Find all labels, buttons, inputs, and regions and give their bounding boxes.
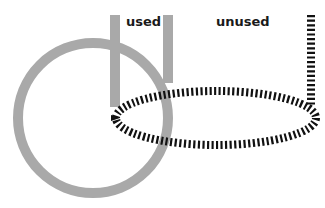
- used-lead-line-left: [110, 15, 120, 107]
- used-lead-line-right: [163, 15, 173, 83]
- used-label: used: [126, 14, 161, 29]
- used-loop-circle: [18, 43, 168, 193]
- unused-label: unused: [216, 14, 270, 29]
- unused-loop-ellipse: [116, 91, 316, 145]
- used-unused-loop-diagram: used unused: [0, 0, 325, 208]
